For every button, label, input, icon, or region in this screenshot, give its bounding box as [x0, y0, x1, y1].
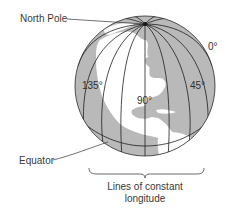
- north-pole-label: North Pole: [20, 13, 67, 24]
- equator-label: Equator: [19, 155, 54, 166]
- caption-line-2: longitude: [95, 193, 195, 205]
- caption-line-1: Lines of constant: [95, 181, 195, 193]
- longitude-brace: [89, 168, 204, 178]
- longitude-label-135: 135°: [82, 80, 103, 91]
- globe-longitude-diagram: North Pole Equator 0° 45° 90° 135° Lines…: [0, 0, 226, 216]
- longitude-caption: Lines of constant longitude: [95, 181, 195, 205]
- longitude-label-90: 90°: [137, 95, 152, 106]
- equator-leader: [53, 142, 108, 160]
- longitude-label-45: 45°: [190, 80, 205, 91]
- longitude-label-0: 0°: [208, 41, 218, 52]
